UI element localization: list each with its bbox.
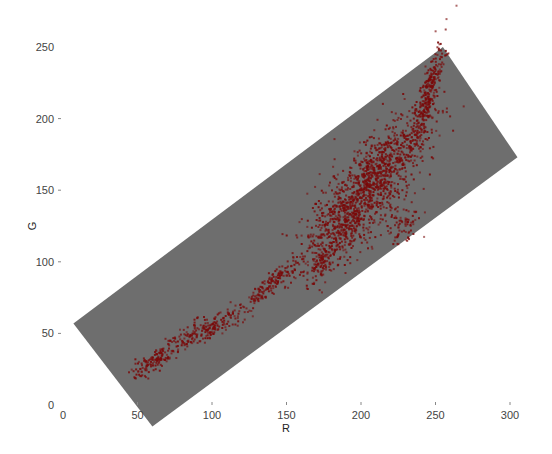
x-tick-label: 50: [131, 409, 143, 421]
y-axis-title: G: [26, 222, 38, 231]
y-axis: 050100150200250: [36, 41, 61, 411]
x-tick-label: 250: [426, 409, 444, 421]
x-tick-label: 300: [501, 409, 519, 421]
x-tick-label: 100: [203, 409, 221, 421]
y-tick-label: 150: [36, 184, 54, 196]
y-tick-label: 0: [48, 399, 54, 411]
y-tick-label: 250: [36, 41, 54, 53]
y-tick-label: 200: [36, 113, 54, 125]
y-tick-label: 50: [42, 327, 54, 339]
x-tick-label: 0: [60, 409, 66, 421]
x-axis: 050100150200250300: [60, 402, 519, 421]
y-tick-label: 100: [36, 256, 54, 268]
x-tick-label: 150: [277, 409, 295, 421]
x-tick-label: 200: [352, 409, 370, 421]
scatter-chart: 050100150200250 050100150200250300 R G: [0, 0, 552, 454]
x-axis-title: R: [282, 422, 290, 434]
